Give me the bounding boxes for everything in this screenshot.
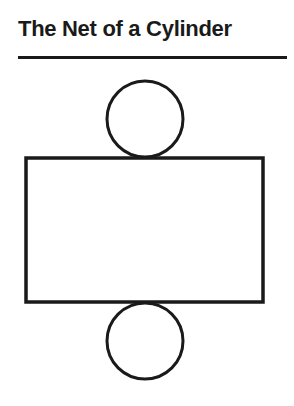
top-base-circle [107,81,183,157]
bottom-base-circle [107,303,183,379]
lateral-surface-rectangle [26,158,263,302]
cylinder-net-diagram [0,0,294,406]
